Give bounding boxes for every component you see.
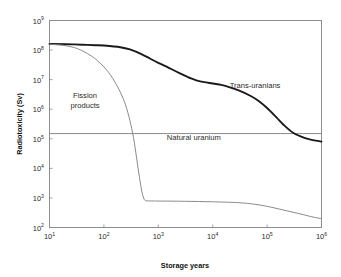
series-label-trans-uranians: Trans-uranians [230,81,281,90]
series-label-fission-products: Fissionproducts [70,91,99,110]
radiotoxicity-decay-chart: 102103104105106107108109 101102103104105… [0,0,341,277]
x-axis-title: Storage years [161,261,209,270]
natural-uranium-label: Natural uranium [167,133,221,142]
y-axis-title: Radiotoxicity (Sv) [15,93,24,155]
